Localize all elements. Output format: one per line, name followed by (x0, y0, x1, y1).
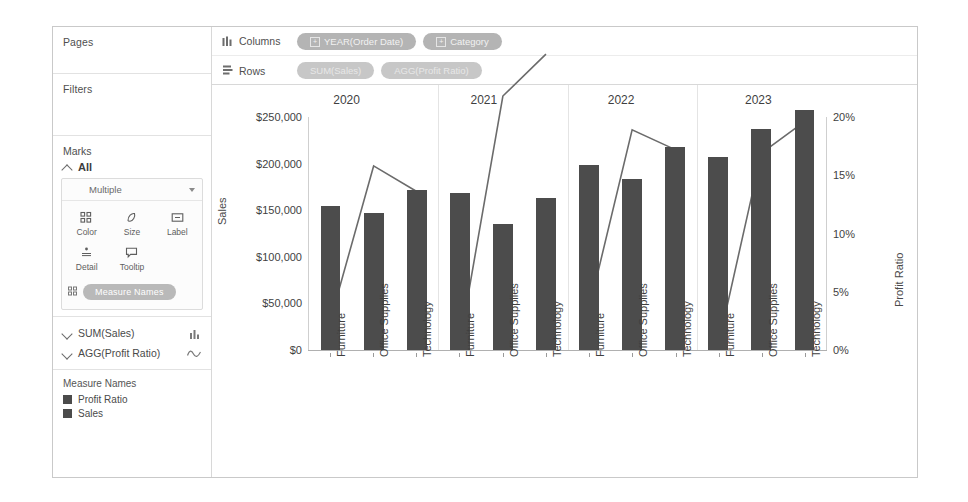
expand-plus-icon[interactable]: + (310, 37, 320, 47)
year-header-2021[interactable]: 2021 (415, 93, 552, 113)
marks-detail-button[interactable]: Detail (64, 242, 109, 277)
expand-plus-icon[interactable]: + (436, 37, 446, 47)
columns-shelf[interactable]: Columns +YEAR(Order Date) +Category (212, 27, 917, 56)
x-tick (719, 353, 720, 357)
color-icon (80, 210, 93, 225)
tooltip-icon (125, 245, 138, 260)
marks-size-label: Size (124, 227, 141, 237)
legend-label-profit-ratio: Profit Ratio (78, 394, 127, 405)
y-tick-left-3: $150,000 (256, 204, 302, 216)
chevron-up-icon (63, 163, 72, 172)
category-label-2022-technology: Technology (681, 301, 693, 357)
pill-sum-sales[interactable]: SUM(Sales) (297, 62, 374, 79)
category-label-2023-furniture: Furniture (724, 313, 736, 357)
marks-color-button[interactable]: Color (64, 207, 109, 242)
rows-shelf[interactable]: Rows SUM(Sales) AGG(Profit Ratio) (212, 56, 917, 85)
measure-label-agg-profit-ratio: AGG(Profit Ratio) (78, 347, 181, 359)
legend-label-sales: Sales (78, 408, 103, 419)
pill-year-order-date-label: YEAR(Order Date) (324, 36, 403, 47)
size-icon (125, 210, 138, 225)
year-separator-2021 (438, 85, 439, 350)
pages-label: Pages (63, 36, 201, 48)
y-tick-right-0: 0% (833, 344, 849, 356)
y-tick-right-4: 20% (833, 111, 855, 123)
measure-row-sum-sales[interactable]: SUM(Sales) (53, 323, 211, 343)
legend-item-sales[interactable]: Sales (63, 408, 201, 419)
bar-chart-icon (189, 328, 201, 339)
y-tick-left-0: $0 (290, 344, 302, 356)
legend-swatch-sales (63, 409, 72, 418)
chevron-down-icon (63, 349, 72, 358)
marks-size-button[interactable]: Size (109, 207, 154, 242)
mark-type-dropdown[interactable]: Multiple (62, 179, 202, 201)
legend-item-profit-ratio[interactable]: Profit Ratio (63, 394, 201, 405)
marks-measure-names-pill[interactable]: Measure Names (83, 284, 176, 300)
marks-tooltip-label: Tooltip (120, 262, 145, 272)
mark-buttons-grid: Color Size (62, 201, 202, 281)
y-tick-right-1: 5% (833, 286, 849, 298)
y-tick-left-2: $100,000 (256, 251, 302, 263)
visualization-area: 2020202120222023 Sales Profit Ratio $0$5… (212, 85, 917, 477)
year-header-row: 2020202120222023 (278, 93, 827, 113)
filters-shelf[interactable]: Filters (53, 74, 211, 136)
year-header-2020[interactable]: 2020 (278, 93, 415, 113)
plot-wrapper: Sales Profit Ratio $0$50,000$100,000$150… (212, 117, 917, 477)
pages-shelf[interactable]: Pages (53, 27, 211, 74)
marks-detail-label: Detail (76, 262, 98, 272)
label-icon (171, 210, 184, 225)
category-label-2023-technology: Technology (810, 301, 822, 357)
marks-all-label: All (78, 161, 92, 173)
pill-year-order-date[interactable]: +YEAR(Order Date) (297, 33, 416, 50)
tableau-worksheet-screenshot: Pages Filters Marks All Multiple (0, 0, 968, 502)
chevron-down-icon (189, 188, 195, 192)
year-header-2022[interactable]: 2022 (553, 93, 690, 113)
year-separator-2022 (568, 85, 569, 350)
x-tick (546, 353, 547, 357)
rows-pills: SUM(Sales) AGG(Profit Ratio) (297, 62, 482, 79)
x-tick (503, 353, 504, 357)
category-axis-labels: FurnitureOffice SuppliesTechnologyFurnit… (308, 353, 827, 453)
y-axis-left-ticks: $0$50,000$100,000$150,000$200,000$250,00… (230, 117, 302, 477)
y-tick-left-5: $250,000 (256, 111, 302, 123)
line-chart-icon (187, 348, 201, 359)
marks-tooltip-button[interactable]: Tooltip (109, 242, 154, 277)
pill-category[interactable]: +Category (423, 33, 502, 50)
y-tick-right-2: 10% (833, 228, 855, 240)
x-tick (373, 353, 374, 357)
measure-row-agg-profit-ratio[interactable]: AGG(Profit Ratio) (53, 343, 211, 363)
x-tick (589, 353, 590, 357)
category-label-2022-office-supplies: Office Supplies (637, 283, 649, 357)
measure-names-legend: Measure Names Profit Ratio Sales (53, 370, 211, 430)
category-label-2020-furniture: Furniture (335, 313, 347, 357)
marks-color-label: Color (77, 227, 97, 237)
measures-list: SUM(Sales) AGG(Profit Ratio) (53, 317, 211, 370)
chevron-down-icon (63, 329, 72, 338)
y-axis-title-sales: Sales (216, 197, 228, 225)
columns-icon (221, 36, 234, 47)
pill-category-label: Category (450, 36, 489, 47)
left-sidebar: Pages Filters Marks All Multiple (53, 27, 212, 477)
pill-agg-profit-ratio[interactable]: AGG(Profit Ratio) (381, 62, 481, 79)
marks-measure-names-row[interactable]: Measure Names (62, 281, 202, 309)
filters-label: Filters (63, 83, 201, 95)
y-tick-left-1: $50,000 (262, 297, 302, 309)
measure-label-sum-sales: SUM(Sales) (78, 327, 183, 339)
marks-card: Multiple (61, 178, 203, 310)
shelves-area: Columns +YEAR(Order Date) +Category (212, 27, 917, 85)
rows-label: Rows (239, 65, 297, 77)
marks-label-label: Label (167, 227, 188, 237)
x-tick (632, 353, 633, 357)
columns-pills: +YEAR(Order Date) +Category (297, 33, 502, 50)
y-axis-right-ticks: 0%5%10%15%20% (833, 117, 881, 477)
legend-title: Measure Names (63, 378, 201, 389)
y-axis-title-profit-ratio: Profit Ratio (893, 253, 905, 307)
y-tick-left-4: $200,000 (256, 158, 302, 170)
x-tick (416, 353, 417, 357)
x-tick (459, 353, 460, 357)
y-tick-right-3: 15% (833, 169, 855, 181)
legend-swatch-profit-ratio (63, 395, 72, 404)
marks-all-row[interactable]: All (53, 159, 211, 178)
mark-type-label: Multiple (69, 184, 122, 195)
category-label-2021-office-supplies: Office Supplies (508, 283, 520, 357)
marks-label-button[interactable]: Label (155, 207, 200, 242)
